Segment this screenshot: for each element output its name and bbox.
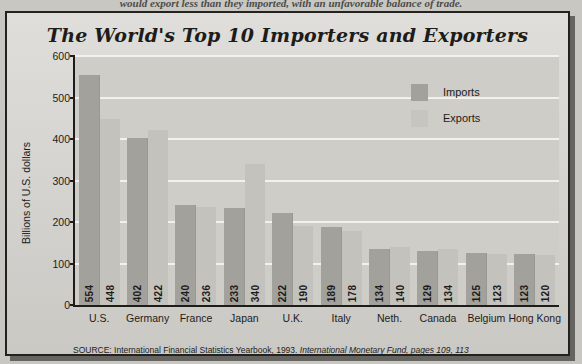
legend-item-imports: Imports xyxy=(411,79,480,105)
bar-value-label: 222 xyxy=(277,285,288,303)
page-caption-fragment: would export less than they imported, wi… xyxy=(0,0,582,9)
bar-value-label: 189 xyxy=(325,285,336,303)
bar-value-label: 448 xyxy=(104,285,115,303)
bar-imports[interactable]: 189 xyxy=(321,227,342,305)
bar-value-label: 129 xyxy=(422,285,433,303)
legend-label-exports: Exports xyxy=(443,112,480,124)
bar-group: 123120Hong Kong xyxy=(511,56,559,305)
x-axis-label: Hong Kong xyxy=(509,312,562,324)
figure-frame: The World's Top 10 Importers and Exporte… xyxy=(5,11,570,356)
bar-value-label: 123 xyxy=(491,285,502,303)
bar-exports[interactable]: 422 xyxy=(148,130,168,305)
bar-imports[interactable]: 402 xyxy=(127,138,148,305)
figure-background: The World's Top 10 Importers and Exporte… xyxy=(7,13,568,354)
bar-imports[interactable]: 240 xyxy=(175,205,196,305)
legend-item-exports: Exports xyxy=(411,105,480,131)
bar-value-label: 190 xyxy=(298,285,309,303)
bar-value-label: 134 xyxy=(443,285,454,303)
source-note-prefix: SOURCE: International Financial Statisti… xyxy=(73,345,297,355)
x-axis-label: France xyxy=(180,312,213,324)
chart-title: The World's Top 10 Importers and Exporte… xyxy=(7,24,568,46)
bar-value-label: 236 xyxy=(201,285,212,303)
bar-exports[interactable]: 190 xyxy=(293,226,313,305)
bar-exports[interactable]: 340 xyxy=(245,164,265,305)
bar-value-label: 554 xyxy=(83,285,94,303)
x-axis-label: Neth. xyxy=(377,312,402,324)
bar-imports[interactable]: 134 xyxy=(369,249,390,305)
bar-imports[interactable]: 123 xyxy=(514,254,535,305)
source-note-citation: International Monetary Fund, pages 109, … xyxy=(300,345,469,355)
bar-exports[interactable]: 134 xyxy=(438,249,458,305)
y-axis-title: Billions of U.S. dollars xyxy=(17,83,35,303)
bar-value-label: 134 xyxy=(374,285,385,303)
bar-exports[interactable]: 448 xyxy=(100,119,120,305)
bar-imports[interactable]: 222 xyxy=(272,213,293,305)
legend-label-imports: Imports xyxy=(443,86,480,98)
bar-group: 402422Germany xyxy=(123,56,171,305)
bar-value-label: 125 xyxy=(470,285,481,303)
y-tick-label-500: 500 xyxy=(52,92,70,104)
chart-legend: Imports Exports xyxy=(411,79,480,131)
bar-imports[interactable]: 125 xyxy=(466,253,487,305)
y-tick-label-600: 600 xyxy=(52,50,70,62)
bar-value-label: 340 xyxy=(249,285,260,303)
y-tick-label-100: 100 xyxy=(52,258,70,270)
bar-value-label: 140 xyxy=(395,285,406,303)
bar-value-label: 422 xyxy=(153,285,164,303)
bar-exports[interactable]: 123 xyxy=(487,254,507,305)
bar-exports[interactable]: 236 xyxy=(196,207,216,305)
bar-group: 554448U.S. xyxy=(75,56,123,305)
x-axis-label: U.S. xyxy=(89,312,109,324)
bar-value-label: 123 xyxy=(519,285,530,303)
x-axis-label: U.K. xyxy=(283,312,303,324)
source-note: SOURCE: International Financial Statisti… xyxy=(73,345,469,355)
bar-imports[interactable]: 554 xyxy=(79,75,100,305)
x-axis-label: Belgium xyxy=(467,312,505,324)
bar-group: 233340Japan xyxy=(220,56,268,305)
legend-swatch-exports-icon xyxy=(411,110,428,127)
bar-value-label: 120 xyxy=(540,285,551,303)
y-axis-title-label: Billions of U.S. dollars xyxy=(20,142,32,244)
bars-layer: 554448U.S.402422Germany240236France23334… xyxy=(75,56,559,305)
bar-value-label: 240 xyxy=(180,285,191,303)
bar-group: 134140Neth. xyxy=(365,56,413,305)
y-tick-label-0: 0 xyxy=(64,299,70,311)
bar-imports[interactable]: 233 xyxy=(224,208,245,305)
y-tick-label-400: 400 xyxy=(52,133,70,145)
x-axis-label: Japan xyxy=(230,312,259,324)
x-axis-label: Germany xyxy=(126,312,169,324)
bar-group: 222190U.K. xyxy=(269,56,317,305)
y-tick-label-200: 200 xyxy=(52,216,70,228)
plot-area: 0100200300400500600 554448U.S.402422Germ… xyxy=(73,56,559,307)
x-axis-label: Canada xyxy=(420,312,457,324)
bar-imports[interactable]: 129 xyxy=(417,251,438,305)
bar-group: 240236France xyxy=(172,56,220,305)
bar-exports[interactable]: 140 xyxy=(390,247,410,305)
bar-exports[interactable]: 178 xyxy=(342,231,362,305)
bar-value-label: 402 xyxy=(132,285,143,303)
legend-swatch-imports-icon xyxy=(411,84,428,101)
bar-group: 189178Italy xyxy=(317,56,365,305)
bar-value-label: 233 xyxy=(228,285,239,303)
bar-exports[interactable]: 120 xyxy=(535,255,555,305)
bar-value-label: 178 xyxy=(346,285,357,303)
x-axis-label: Italy xyxy=(332,312,351,324)
y-tick-label-300: 300 xyxy=(52,175,70,187)
